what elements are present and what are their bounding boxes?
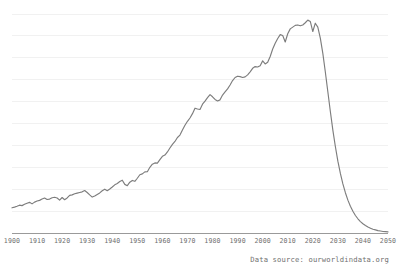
x-tick-label: 1930 xyxy=(79,237,95,245)
gridlines xyxy=(12,14,388,211)
x-tick-label: 2020 xyxy=(305,237,321,245)
x-tick-label: 2010 xyxy=(280,237,296,245)
x-tick-label: 1970 xyxy=(179,237,195,245)
data-series xyxy=(12,20,388,232)
x-tick-label: 2030 xyxy=(330,237,346,245)
x-tick-label: 2040 xyxy=(355,237,371,245)
x-tick-label: 2050 xyxy=(380,237,396,245)
x-axis-tick-labels: 1900191019201930194019501960197019801990… xyxy=(4,237,396,245)
x-tick-label: 1940 xyxy=(104,237,120,245)
x-tick-label: 1900 xyxy=(4,237,20,245)
series-line xyxy=(12,20,388,232)
chart-plot-area: 1900191019201930194019501960197019801990… xyxy=(0,0,403,278)
data-source-note: Data source: ourworldindata.org xyxy=(250,255,389,264)
x-tick-label: 1980 xyxy=(204,237,220,245)
x-tick-label: 1960 xyxy=(154,237,170,245)
x-tick-label: 1950 xyxy=(129,237,145,245)
x-tick-label: 1990 xyxy=(229,237,245,245)
x-tick-label: 1920 xyxy=(54,237,70,245)
x-tick-label: 1910 xyxy=(29,237,45,245)
x-tick-label: 2000 xyxy=(255,237,271,245)
line-chart: 1900191019201930194019501960197019801990… xyxy=(0,0,403,278)
